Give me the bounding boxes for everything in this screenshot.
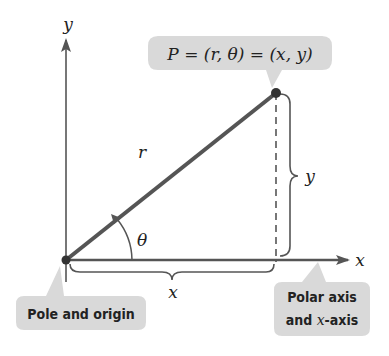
- x-axis-label: x: [355, 250, 365, 270]
- theta-label: θ: [137, 230, 147, 250]
- polar-axis-line1: Polar axis: [287, 289, 357, 305]
- polar-axis-line2: and x-axis: [286, 312, 358, 328]
- pole-callout-text: Pole and origin: [27, 306, 134, 322]
- y-brace-label: y: [304, 166, 315, 186]
- radius-segment: [66, 93, 276, 260]
- r-label: r: [138, 142, 147, 162]
- point-callout-text: P = (r, θ) = (x, y): [166, 44, 312, 64]
- pole-callout: Pole and origin: [16, 266, 146, 330]
- pole-point: [62, 256, 71, 265]
- point-p: [271, 88, 281, 98]
- y-brace: [280, 94, 298, 256]
- polar-axis-callout: Polar axis and x-axis: [274, 262, 370, 336]
- point-callout: P = (r, θ) = (x, y): [148, 36, 332, 88]
- y-axis-label: y: [62, 14, 73, 34]
- polar-diagram: P = (r, θ) = (x, y) Pole and origin Pola…: [0, 0, 389, 356]
- x-brace-label: x: [168, 282, 178, 302]
- x-brace: [70, 264, 274, 280]
- theta-arc: [117, 219, 132, 260]
